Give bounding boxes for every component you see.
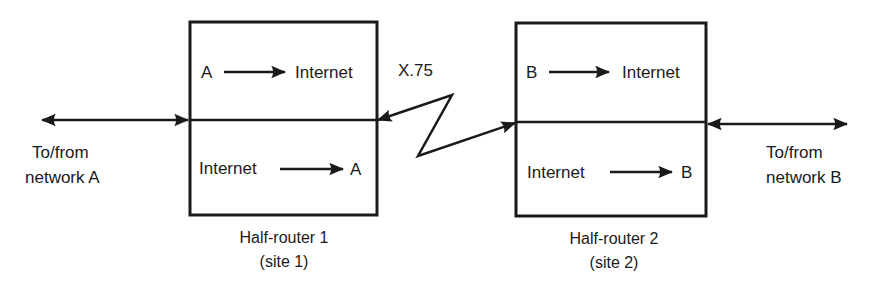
endpoint-a-line2: network A: [25, 168, 100, 187]
endpoint-b-line1: To/from: [766, 143, 823, 162]
half-router-2: B Internet Internet B: [516, 23, 706, 216]
router1-top-to: Internet: [295, 63, 353, 82]
half-router-1: A Internet Internet A: [190, 22, 377, 215]
router1-name: Half-router 1: [240, 229, 329, 246]
half-router-diagram: To/from network A A Internet Internet A …: [0, 0, 886, 289]
router1-site: (site 1): [260, 253, 309, 270]
router-box: [190, 22, 377, 215]
router2-site: (site 2): [590, 254, 639, 271]
zigzag-link-icon: [378, 95, 515, 156]
endpoint-a-line1: To/from: [32, 143, 89, 162]
x75-label: X.75: [398, 61, 433, 80]
endpoint-b-line2: network B: [766, 168, 842, 187]
router1-top-from: A: [201, 63, 213, 82]
router2-top-from: B: [526, 63, 537, 82]
router1-bottom-to: A: [350, 160, 362, 179]
router2-name: Half-router 2: [570, 230, 659, 247]
router-box: [516, 23, 706, 216]
router1-bottom-from: Internet: [199, 159, 257, 178]
router2-top-to: Internet: [622, 63, 680, 82]
router2-bottom-from: Internet: [527, 163, 585, 182]
router2-bottom-to: B: [681, 163, 692, 182]
